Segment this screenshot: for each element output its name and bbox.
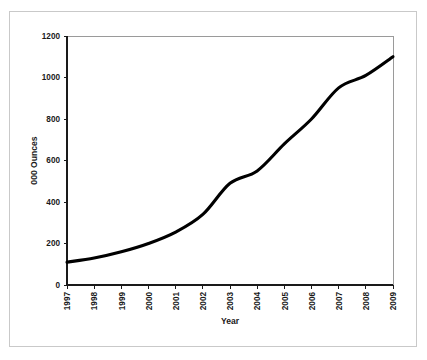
- x-tick-label: 2004: [253, 292, 262, 311]
- x-tick-label: 2001: [172, 292, 181, 311]
- x-tick-label: 1998: [90, 292, 99, 311]
- y-tick-label: 1200: [42, 32, 61, 41]
- x-tick-label: 1997: [63, 292, 72, 311]
- plot-frame-group: [67, 36, 393, 285]
- x-axis-tick-labels: 1997199819992000200120022003200420052006…: [63, 292, 398, 311]
- y-axis-tick-labels: 020040060080010001200: [42, 32, 61, 290]
- x-tick-label: 2007: [335, 292, 344, 311]
- y-tick-label: 600: [46, 156, 60, 165]
- x-axis-title: Year: [221, 316, 240, 326]
- x-tick-label: 2008: [362, 292, 371, 311]
- x-tick-label: 2002: [199, 292, 208, 311]
- y-tick-label: 200: [46, 239, 60, 248]
- x-tick-label: 2006: [308, 292, 317, 311]
- chart-canvas: 020040060080010001200 199719981999200020…: [0, 0, 427, 360]
- x-tick-label: 2000: [145, 292, 154, 311]
- y-tick-label: 1000: [42, 73, 61, 82]
- plot-frame-top-right: [67, 36, 393, 285]
- y-tick-label: 400: [46, 198, 60, 207]
- x-tick-label: 2009: [389, 292, 398, 311]
- line-chart: 020040060080010001200 199719981999200020…: [0, 0, 427, 360]
- series-line-production: [67, 57, 393, 262]
- x-tick-label: 2005: [281, 292, 290, 311]
- data-series-group: [67, 57, 393, 262]
- x-tick-label: 1999: [118, 292, 127, 311]
- y-axis-title: 000 Ounces: [29, 136, 39, 184]
- x-tick-label: 2003: [226, 292, 235, 311]
- y-tick-label: 800: [46, 115, 60, 124]
- y-tick-label: 0: [55, 281, 60, 290]
